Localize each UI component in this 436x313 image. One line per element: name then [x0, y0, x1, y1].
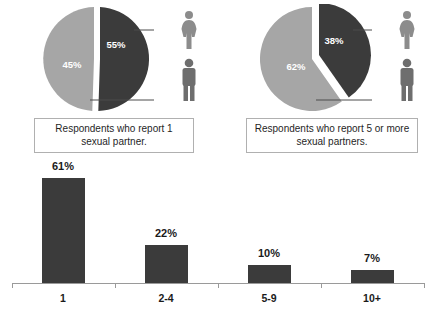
bar-value-label-1: 61%	[33, 160, 93, 172]
pie-chart-five-or-more: 38% 62%	[260, 4, 372, 114]
axis-tick	[424, 283, 425, 288]
pie-caption-one-partner: Respondents who report 1 sexual partner.	[34, 118, 194, 153]
pie-leader-lines-five-or-more	[260, 4, 372, 114]
bar-value-label-2: 22%	[136, 227, 196, 239]
axis-tick	[115, 283, 116, 288]
pie-caption-five-or-more: Respondents who report 5 or more sexual …	[246, 118, 418, 153]
bar-chart-partner-counts: 61% 1 22% 2-4 10% 5-9 7% 10+	[0, 156, 436, 313]
bar-category-label-3: 5-9	[239, 292, 299, 304]
bar-category-label-4: 10+	[342, 292, 402, 304]
bar-value-label-4: 7%	[342, 252, 402, 264]
bar-category-label-2: 2-4	[136, 292, 196, 304]
bar-category-5-9[interactable]	[248, 265, 291, 283]
bar-category-10-plus[interactable]	[351, 270, 394, 283]
infographic-canvas: 55% 45% Respondents who repor	[0, 0, 436, 313]
bar-category-2-4[interactable]	[145, 245, 188, 283]
pie-panel-five-or-more: 38% 62% Respondents who report 5 or mor	[218, 0, 436, 156]
axis-tick	[12, 283, 13, 288]
axis-tick	[321, 283, 322, 288]
pie-panel-one-partner: 55% 45% Respondents who repor	[0, 0, 218, 156]
male-person-icon	[176, 58, 202, 102]
bar-category-label-1: 1	[33, 292, 93, 304]
pie-leader-lines-one-partner	[42, 4, 154, 114]
female-person-icon	[394, 10, 420, 50]
bar-value-label-3: 10%	[239, 247, 299, 259]
female-person-icon	[176, 10, 202, 50]
male-person-icon	[394, 58, 420, 102]
pie-chart-one-partner: 55% 45%	[42, 4, 154, 114]
axis-tick	[218, 283, 219, 288]
bar-category-1[interactable]	[42, 178, 85, 283]
